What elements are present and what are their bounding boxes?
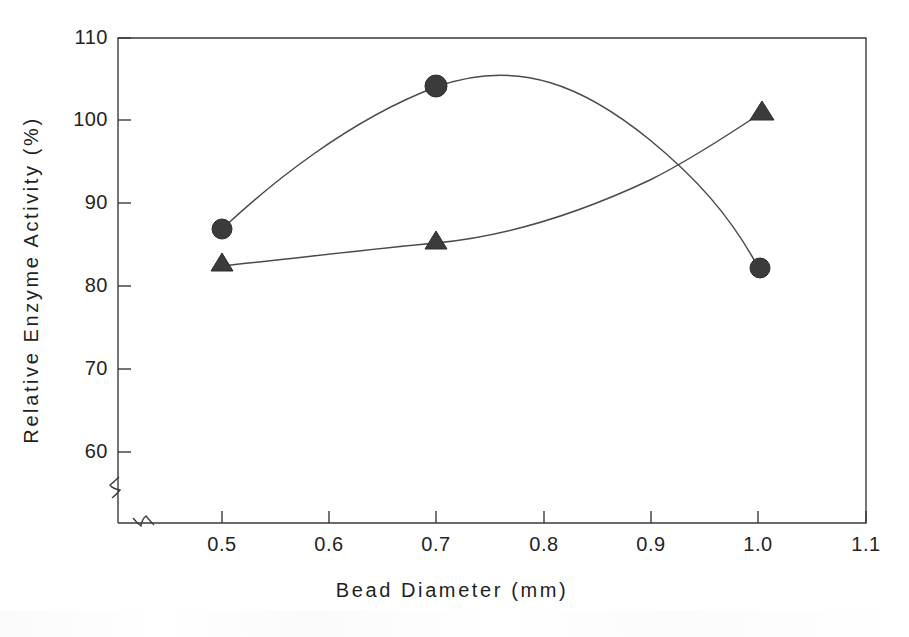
y-axis-title: Relative Enzyme Activity (%) xyxy=(20,116,42,443)
axis-frame-path xyxy=(118,38,866,523)
circle-series-line xyxy=(222,75,758,267)
x-ticklabel-0.6: 0.6 xyxy=(314,533,343,555)
triangle-series-markers xyxy=(211,101,774,271)
x-ticklabel-0.5: 0.5 xyxy=(207,533,236,555)
y-ticklabel-60: 60 xyxy=(85,440,108,462)
y-ticklabel-110: 110 xyxy=(75,26,108,48)
x-ticklabel-0.7: 0.7 xyxy=(421,533,450,555)
triangle-series-line xyxy=(222,115,758,266)
x-axis-title: Bead Diameter (mm) xyxy=(336,579,568,601)
x-ticklabel-1.0: 1.0 xyxy=(743,533,772,555)
x-axis-break-icon xyxy=(133,516,154,526)
y-ticklabel-90: 90 xyxy=(85,191,108,213)
plot-frame xyxy=(118,38,866,523)
data-point-circle-0.7 xyxy=(425,75,447,97)
x-axis-ticks xyxy=(222,511,866,523)
x-axis-tick-labels: 0.5 0.6 0.7 0.8 0.9 1.0 1.1 xyxy=(207,533,880,555)
y-axis-ticks xyxy=(118,38,131,452)
x-ticklabel-0.9: 0.9 xyxy=(636,533,665,555)
y-axis-tick-labels: 110 100 90 80 70 60 xyxy=(73,26,108,462)
y-ticklabel-80: 80 xyxy=(85,274,108,296)
y-ticklabel-70: 70 xyxy=(85,357,108,379)
data-point-circle-0.5 xyxy=(212,219,232,239)
x-ticklabel-1.1: 1.1 xyxy=(851,533,880,555)
axis-break-marks xyxy=(110,477,154,526)
x-ticklabel-0.8: 0.8 xyxy=(529,533,558,555)
data-point-circle-1.0 xyxy=(750,258,770,278)
enzyme-activity-line-chart: 110 100 90 80 70 60 0.5 0.6 0.7 0.8 0.9 … xyxy=(0,0,909,637)
y-ticklabel-100: 100 xyxy=(73,108,108,130)
data-point-triangle-0.7 xyxy=(425,231,447,249)
data-point-triangle-0.5 xyxy=(211,253,233,271)
data-point-triangle-1.0 xyxy=(750,101,774,120)
circle-series-markers xyxy=(212,75,770,278)
chart-figure: 110 100 90 80 70 60 0.5 0.6 0.7 0.8 0.9 … xyxy=(0,0,909,637)
